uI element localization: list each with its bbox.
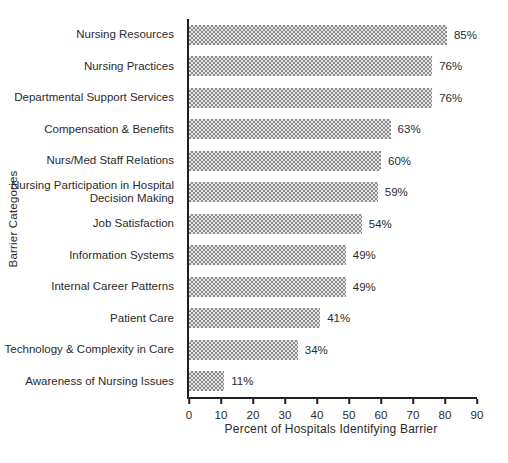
category-label: Nursing Participation in Hospital Decisi… (2, 179, 181, 205)
x-axis-tick-mark (380, 399, 382, 404)
category-label-row: Awareness of Nursing Issues (0, 366, 181, 398)
value-label: 49% (353, 249, 376, 261)
category-label-row: Technology & Complexity in Care (0, 334, 181, 366)
category-label-row: Information Systems (0, 240, 181, 272)
bar-row: 54% (189, 208, 477, 240)
category-label: Information Systems (69, 249, 181, 262)
category-label-row: Patient Care (0, 303, 181, 335)
category-label: Patient Care (110, 312, 181, 325)
bar (189, 277, 346, 297)
bar-row: 49% (189, 271, 477, 303)
bar-row: 76% (189, 51, 477, 83)
bar-row: 34% (189, 334, 477, 366)
bar-row: 59% (189, 177, 477, 209)
category-label: Awareness of Nursing Issues (25, 375, 181, 388)
bars-container: 85%76%76%63%60%59%54%49%49%41%34%11% (189, 19, 477, 397)
category-label-row: Job Satisfaction (0, 208, 181, 240)
category-label-row: Nurs/Med Staff Relations (0, 145, 181, 177)
x-axis-tick-label: 90 (471, 409, 484, 421)
category-label-row: Internal Career Patterns (0, 271, 181, 303)
x-axis-tick-label: 80 (439, 409, 452, 421)
bar (189, 119, 391, 139)
x-axis-tick-label: 0 (186, 409, 192, 421)
bar (189, 56, 432, 76)
x-axis-tick-label: 10 (215, 409, 228, 421)
x-axis-tick-label: 50 (343, 409, 356, 421)
category-label: Job Satisfaction (93, 217, 181, 230)
x-axis-tick-label: 70 (407, 409, 420, 421)
x-axis-tick-label: 40 (311, 409, 324, 421)
value-label: 59% (385, 186, 408, 198)
x-axis-tick-label: 30 (279, 409, 292, 421)
bar (189, 214, 362, 234)
value-label: 49% (353, 281, 376, 293)
x-axis-tick-mark (412, 399, 414, 404)
bar (189, 245, 346, 265)
x-axis-tick-label: 60 (375, 409, 388, 421)
category-label-row: Nursing Participation in Hospital Decisi… (0, 177, 181, 209)
bar-row: 11% (189, 366, 477, 398)
bar-row: 49% (189, 240, 477, 272)
value-label: 63% (398, 123, 421, 135)
bar-chart-figure: Barrier Categories Nursing ResourcesNurs… (0, 0, 508, 463)
value-label: 41% (327, 312, 350, 324)
value-label: 60% (388, 155, 411, 167)
category-label: Compensation & Benefits (44, 123, 181, 136)
category-label: Internal Career Patterns (51, 280, 181, 293)
value-label: 11% (231, 375, 253, 387)
category-label-row: Departmental Support Services (0, 82, 181, 114)
bar (189, 308, 320, 328)
bar (189, 25, 447, 45)
bar-row: 60% (189, 145, 477, 177)
x-axis-tick-mark (284, 399, 286, 404)
category-label: Technology & Complexity in Care (5, 343, 181, 356)
x-axis-tick-mark (316, 399, 318, 404)
x-axis-tick-mark (444, 399, 446, 404)
x-axis-tick-mark (188, 399, 190, 404)
category-label: Nursing Practices (84, 60, 181, 73)
category-label-row: Compensation & Benefits (0, 114, 181, 146)
x-axis-tick-mark (348, 399, 350, 404)
value-label: 34% (305, 344, 328, 356)
value-label: 76% (439, 60, 462, 72)
category-label-column: Nursing ResourcesNursing PracticesDepart… (0, 19, 181, 397)
bar-row: 85% (189, 19, 477, 51)
value-label: 85% (454, 29, 477, 41)
bar-row: 41% (189, 303, 477, 335)
category-label: Nursing Resources (76, 28, 181, 41)
x-axis-tick-mark (220, 399, 222, 404)
bar (189, 182, 378, 202)
category-label: Nurs/Med Staff Relations (46, 154, 181, 167)
bar (189, 371, 224, 391)
category-label-row: Nursing Practices (0, 51, 181, 83)
value-label: 76% (439, 92, 462, 104)
category-label: Departmental Support Services (14, 91, 181, 104)
value-label: 54% (369, 218, 392, 230)
x-axis-tick-mark (252, 399, 254, 404)
bar (189, 151, 381, 171)
bar-row: 63% (189, 114, 477, 146)
x-axis-tick-mark (476, 399, 478, 404)
category-label-row: Nursing Resources (0, 19, 181, 51)
plot-area: 85%76%76%63%60%59%54%49%49%41%34%11% 010… (187, 19, 477, 399)
x-axis-tick-label: 20 (247, 409, 260, 421)
x-axis-title: Percent of Hospitals Identifying Barrier (187, 422, 475, 436)
bar (189, 340, 298, 360)
bar (189, 88, 432, 108)
bar-row: 76% (189, 82, 477, 114)
